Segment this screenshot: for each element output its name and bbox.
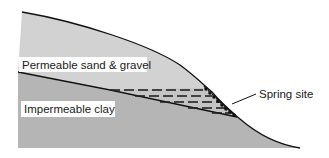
- spring-leader-line: [232, 94, 256, 104]
- sand-label: Permeable sand & gravel: [22, 59, 151, 71]
- spring-diagram: Permeable sand & gravel Impermeable clay…: [0, 0, 329, 158]
- spring-site-label: Spring site: [259, 88, 313, 100]
- clay-label: Impermeable clay: [24, 103, 115, 115]
